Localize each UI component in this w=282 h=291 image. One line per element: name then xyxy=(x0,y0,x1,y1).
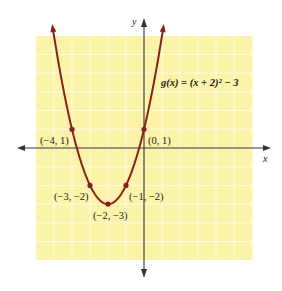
curve-left-arrow-icon xyxy=(50,24,56,32)
point-label-neg4-1: (−4, 1) xyxy=(40,135,69,147)
y-axis-up-arrow-icon xyxy=(141,18,147,27)
point-label-neg1-neg2: (−1, −2) xyxy=(129,191,164,203)
point-label-neg2-neg3: (−2, −3) xyxy=(93,210,128,222)
data-point xyxy=(69,127,74,132)
point-label-0-1: (0, 1) xyxy=(148,135,171,147)
x-axis-right-arrow-icon xyxy=(263,145,271,151)
data-point xyxy=(105,202,110,207)
x-axis-left-arrow-icon xyxy=(17,145,25,151)
curve-right-arrow-icon xyxy=(160,24,166,32)
y-axis-down-arrow-icon xyxy=(141,269,147,278)
y-axis-label: y xyxy=(131,16,137,27)
parabola-graph: y x g(x) = (x + 2)² − 3 (−4, 1) (0, 1) (… xyxy=(0,0,282,291)
data-point xyxy=(87,183,92,188)
equation-label: g(x) = (x + 2)² − 3 xyxy=(160,77,238,89)
x-axis-label: x xyxy=(262,153,268,164)
data-point xyxy=(123,183,128,188)
point-label-neg3-neg2: (−3, −2) xyxy=(54,191,89,203)
data-point xyxy=(141,127,146,132)
